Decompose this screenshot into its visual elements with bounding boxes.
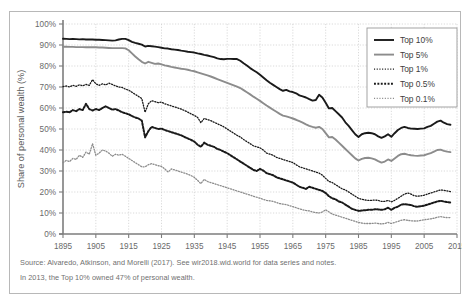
x-tick-label: 1985: [349, 242, 368, 250]
x-tick-label: 1965: [284, 242, 303, 250]
x-tick-label: 1895: [54, 242, 73, 250]
footnotes: Source: Alvaredo, Atkinson, and Morelli …: [20, 255, 450, 285]
x-tick-label: 1945: [218, 242, 237, 250]
y-axis-title: Share of personal wealth (%): [16, 70, 26, 188]
x-tick-label: 1915: [120, 242, 139, 250]
y-tick-label: 10%: [40, 209, 56, 218]
x-tick-label: 1975: [317, 242, 336, 250]
y-tick-label: 20%: [40, 188, 56, 197]
x-tick-label: 1955: [251, 242, 270, 250]
highlight-note: In 2013, the Top 10% owned 47% of person…: [20, 270, 450, 285]
legend-label-top-0-1[interactable]: Top 0.1%: [400, 94, 435, 104]
y-tick-label: 50%: [40, 125, 56, 134]
figure-frame: 0%10%20%30%40%50%60%70%80%90%100% 189519…: [9, 11, 461, 294]
y-tick-label: 30%: [40, 167, 56, 176]
legend-label-top-5[interactable]: Top 5%: [400, 50, 428, 60]
x-tick-label: 2005: [415, 242, 434, 250]
figure-page: 0%10%20%30%40%50%60%70%80%90%100% 189519…: [0, 0, 471, 305]
x-axis-ticks: 1895190519151925193519451955196519751985…: [54, 234, 462, 250]
y-tick-label: 100%: [35, 20, 56, 29]
x-tick-label: 1935: [185, 242, 204, 250]
x-tick-label: 1995: [382, 242, 401, 250]
source-note: Source: Alvaredo, Atkinson, and Morelli …: [20, 255, 450, 270]
y-tick-label: 80%: [40, 62, 56, 71]
series-line-top-0-1: [63, 144, 450, 224]
y-axis-label: Share of personal wealth (%): [16, 70, 26, 188]
x-tick-label: 1925: [152, 242, 171, 250]
wealth-share-line-chart: 0%10%20%30%40%50%60%70%80%90%100% 189519…: [10, 12, 462, 250]
y-tick-label: 40%: [40, 146, 56, 155]
x-tick-label: 2015: [448, 242, 462, 250]
y-tick-label: 60%: [40, 104, 56, 113]
series-line-top-0-5: [63, 104, 450, 211]
y-tick-label: 70%: [40, 83, 56, 92]
y-tick-label: 0%: [44, 230, 56, 239]
y-tick-label: 90%: [40, 41, 56, 50]
legend-label-top-10[interactable]: Top 10%: [400, 35, 433, 45]
x-tick-label: 1905: [87, 242, 106, 250]
y-axis-ticks: 0%10%20%30%40%50%60%70%80%90%100%: [35, 20, 63, 239]
legend-label-top-1[interactable]: Top 1%: [400, 64, 428, 74]
chart-legend[interactable]: Top 10%Top 5%Top 1%Top 0.5%Top 0.1%: [367, 28, 457, 107]
legend-label-top-0-5[interactable]: Top 0.5%: [400, 79, 435, 89]
chart-plot-area: 0%10%20%30%40%50%60%70%80%90%100% 189519…: [10, 12, 462, 250]
